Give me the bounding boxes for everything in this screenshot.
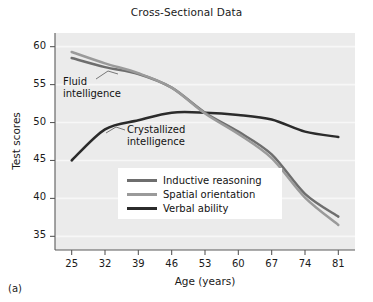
y-tick-label: 55	[14, 78, 46, 89]
y-tick-label: 35	[14, 229, 46, 240]
chart-plot-area	[0, 0, 373, 302]
x-tick-label: 60	[223, 258, 253, 269]
x-tick-label: 74	[290, 258, 320, 269]
x-tick-label: 67	[257, 258, 287, 269]
y-tick-label: 40	[14, 191, 46, 202]
x-tick-label: 32	[90, 258, 120, 269]
figure-panel: Cross-Sectional Data 354045505560 253239…	[0, 0, 373, 302]
legend-label: Inductive reasoning	[163, 174, 262, 188]
chart-legend: Inductive reasoningSpatial orientationVe…	[118, 168, 282, 219]
annotation-fluid-intelligence: Fluid intelligence	[63, 76, 121, 99]
annotation-fluid-line1: Fluid	[63, 76, 121, 88]
x-tick-label: 81	[323, 258, 353, 269]
annotation-crystallized-intelligence: Crystallized intelligence	[127, 124, 185, 147]
legend-swatch-icon	[127, 193, 157, 196]
x-tick-label: 25	[57, 258, 87, 269]
x-tick-label: 53	[190, 258, 220, 269]
x-tick-label: 39	[123, 258, 153, 269]
x-tick-label: 46	[157, 258, 187, 269]
annotation-fluid-line2: intelligence	[63, 88, 121, 100]
annotation-crystallized-line1: Crystallized	[127, 124, 185, 136]
x-axis-title: Age (years)	[55, 275, 355, 287]
legend-swatch-icon	[127, 207, 157, 210]
legend-label: Spatial orientation	[163, 188, 255, 202]
y-tick-label: 60	[14, 40, 46, 51]
y-axis-ticks	[50, 47, 55, 237]
legend-swatch-icon	[127, 179, 157, 182]
annotation-crystallized-line2: intelligence	[127, 136, 185, 148]
panel-label: (a)	[8, 283, 22, 294]
legend-label: Verbal ability	[163, 202, 228, 216]
y-axis-title: Test scores	[10, 106, 22, 176]
x-axis-ticks	[72, 250, 339, 255]
